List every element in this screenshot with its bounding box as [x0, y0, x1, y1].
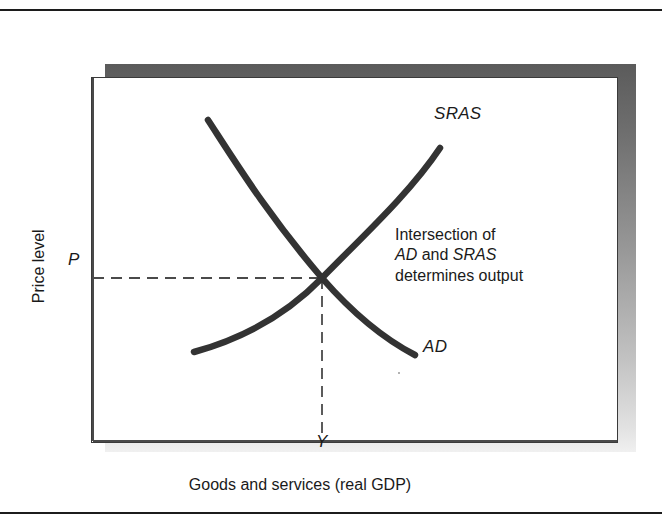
ad-curve — [208, 120, 415, 355]
figure-ad-sras: Price level Goods and services (real GDP… — [0, 20, 662, 505]
page-rule-top — [0, 9, 662, 11]
page-rule-bottom — [0, 512, 662, 514]
y-axis-title: Price level — [29, 206, 49, 326]
equilibrium-annotation: Intersection of AD and SRAS determines o… — [395, 225, 523, 286]
scan-speck-artifact — [398, 372, 400, 374]
x-axis-title: Goods and services (real GDP) — [0, 475, 600, 495]
sras-curve-label: SRAS — [434, 103, 482, 125]
annotation-line-2: AD and SRAS — [395, 245, 523, 265]
annotation-line-1: Intersection of — [395, 225, 523, 245]
x-axis-tick-label-y: Y — [316, 431, 327, 453]
annotation-line-3: determines output — [395, 266, 523, 286]
annotation-conjunction: and — [417, 246, 453, 263]
y-axis-tick-label-p: P — [68, 249, 79, 271]
ad-curve-label: AD — [423, 336, 447, 358]
annotation-sras-term: SRAS — [453, 246, 497, 263]
annotation-ad-term: AD — [395, 246, 417, 263]
chart-plot — [0, 20, 662, 505]
